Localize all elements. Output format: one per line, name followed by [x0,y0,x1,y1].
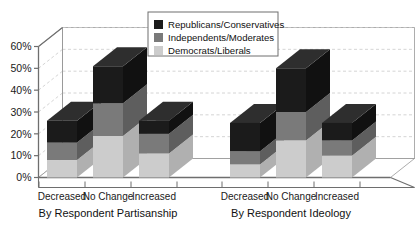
y-tick-label: 10% [10,149,31,161]
bar-front-face [139,121,169,134]
category-label: Decreased [221,191,269,202]
legend-label: Democrats/Liberals [168,45,251,56]
bar-front-face [230,151,260,164]
bar-front-face [93,103,123,136]
stacked-column-chart: 0%10%20%30%40%50%60% DecreasedNo ChangeI… [0,0,418,226]
bar-front-face [322,123,352,140]
bar-column [276,49,330,177]
bar-front-face [276,112,306,140]
bar-front-face [322,140,352,155]
chart-legend: Republicans/ConservativesIndependents/Mo… [148,12,284,56]
group-label: By Respondent Ideology [231,207,351,219]
legend-swatch [154,33,163,42]
y-tick-label: 20% [10,128,31,140]
category-label: No Change [266,191,317,202]
bar-front-face [230,123,260,151]
legend-item: Independents/Moderates [154,32,274,43]
legend-label: Republicans/Conservatives [168,19,284,30]
bar-front-face [322,156,352,178]
bar-front-face [47,143,77,160]
category-label: No Change [83,191,134,202]
legend-swatch [154,20,163,29]
legend-swatch [154,46,163,55]
bar-front-face [230,164,260,177]
y-tick-label: 60% [10,40,31,52]
chart-canvas: 0%10%20%30%40%50%60% DecreasedNo ChangeI… [0,0,418,226]
legend-item: Republicans/Conservatives [154,19,284,30]
bar-front-face [93,66,123,103]
bar-front-face [139,134,169,154]
bar-front-face [47,121,77,143]
category-label: Increased [132,191,176,202]
legend-item: Democrats/Liberals [154,45,251,56]
y-tick-label: 0% [16,171,31,183]
category-label: Decreased [38,191,86,202]
category-label: Increased [315,191,359,202]
bar-column [93,47,147,177]
bar-front-face [276,68,306,112]
bar-front-face [93,136,123,177]
bar-front-face [276,140,306,177]
y-tick-label: 40% [10,84,31,96]
y-tick-label: 50% [10,62,31,74]
legend-label: Independents/Moderates [168,32,274,43]
bar-front-face [47,160,77,177]
group-label: By Respondent Partisanship [39,207,178,219]
y-tick-label: 30% [10,106,31,118]
bar-front-face [139,153,169,177]
